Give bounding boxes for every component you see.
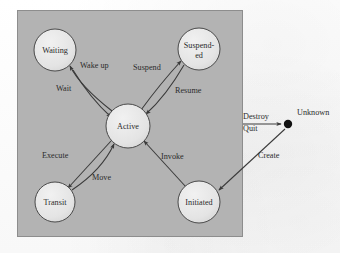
unknown-state-label: Unknown: [297, 108, 329, 117]
node-waiting-label: Waiting: [42, 46, 68, 55]
node-suspended-label-line1: Suspend-: [184, 41, 215, 50]
edge-label-create: Create: [258, 151, 280, 160]
node-transit[interactable]: Transit: [35, 182, 75, 222]
edge-label-destroy: Destroy: [243, 112, 270, 121]
edge-label-wait: Wait: [56, 84, 72, 93]
node-initiated-label: Initiated: [185, 198, 212, 207]
edge-label-move: Move: [92, 173, 111, 182]
figure-canvas: Waiting Suspend- ed Active Transit Initi…: [0, 0, 340, 253]
node-waiting[interactable]: Waiting: [34, 29, 76, 71]
node-suspended[interactable]: Suspend- ed: [178, 28, 220, 70]
node-transit-label: Transit: [44, 198, 68, 207]
state-transition-diagram: Waiting Suspend- ed Active Transit Initi…: [0, 0, 340, 253]
edge-label-wake-up: Wake up: [80, 61, 109, 70]
edge-label-suspend: Suspend: [133, 63, 161, 72]
unknown-state-dot[interactable]: [284, 120, 292, 128]
node-initiated[interactable]: Initiated: [178, 181, 220, 223]
edge-label-invoke: Invoke: [161, 152, 184, 161]
node-active[interactable]: Active: [106, 104, 150, 148]
node-active-label: Active: [117, 122, 139, 131]
edge-label-quit: Quit: [243, 124, 258, 133]
node-suspended-label-line2: ed: [195, 51, 203, 60]
edge-label-resume: Resume: [175, 86, 202, 95]
edge-label-execute: Execute: [42, 151, 69, 160]
